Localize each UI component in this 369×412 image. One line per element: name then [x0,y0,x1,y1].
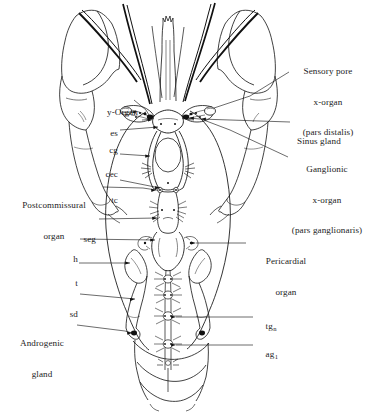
abdominal-ganglion-1 [154,336,182,352]
sperm-duct [126,276,210,339]
label-tg-n: tgn [256,311,296,342]
label-line: organ [250,287,322,297]
label-line: Postcommissural [6,200,102,210]
heart-and-pericardial-organ [138,232,198,271]
label-line: tg [266,321,273,331]
circumoesophageal-connectives [148,131,189,188]
label-pericardial-organ: Pericardial organ [250,236,322,317]
label-line: x-organ [287,97,369,107]
thoracic-ganglion-2 [154,288,182,303]
label-line: Pericardial [250,256,322,266]
label-androgenic-gland: Androgenic gland [8,318,76,399]
label-line: ag [266,349,275,359]
label-line: x-organ [285,195,369,205]
label-ag-1: ag1 [256,339,296,370]
label-subscript: n [273,325,277,332]
thoracic-ganglion-1 [154,272,182,287]
label-line: t [64,278,78,288]
leg-attachments [108,206,229,223]
label-line: (pars ganglionaris) [285,225,369,235]
ventral-nerve-cord [154,270,182,392]
label-subscript: 1 [274,353,278,360]
thoracic-ganglion-n [154,308,182,324]
label-line: gland [8,369,76,379]
anatomical-figure: Sensory pore x-organ (pars distalis) Sin… [0,0,369,412]
label-line: Sensory pore [287,66,369,76]
suboesophageal-ganglion [149,193,187,233]
label-line: Ganglionic [285,164,369,174]
abdominal-ganglion-2 [157,359,179,365]
label-line: Androgenic [8,338,76,348]
